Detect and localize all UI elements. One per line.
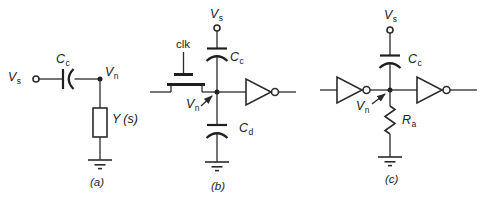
vs-base: V [210, 7, 218, 21]
vn-subscript: n [195, 103, 200, 113]
coupling-capacitor [63, 69, 74, 89]
cc-subscript: c [418, 58, 422, 68]
admittance-argument: (s) [123, 112, 138, 126]
cd-label: Cd [239, 122, 253, 137]
vn-subscript: n [365, 105, 370, 115]
vs-subscript: s [393, 14, 397, 24]
admittance-label: Y(s) [112, 113, 138, 126]
cc-base: C [230, 50, 239, 64]
panel-c-caption: (c) [385, 174, 398, 186]
cc-subscript: c [240, 56, 244, 66]
vn-subscript: n [114, 71, 119, 81]
cc-label: Cc [230, 51, 244, 66]
panel-a [33, 69, 112, 169]
ground-symbol [378, 157, 402, 166]
vs-label: Vs [8, 71, 21, 86]
ground-symbol [88, 160, 112, 169]
vs-terminal [387, 27, 393, 33]
cc-label: Cc [408, 53, 422, 68]
inverter-bubble [363, 87, 370, 94]
vn-base: V [105, 65, 113, 79]
vn-pointer-arrow [372, 94, 385, 104]
panel-a-caption: (a) [90, 177, 104, 189]
vn-label: Vn [105, 66, 119, 81]
vs-base: V [384, 8, 392, 22]
cd-subscript: d [249, 127, 254, 137]
admittance-base: Y [112, 112, 120, 126]
vs-terminal [33, 76, 39, 82]
cc-label: Cc [56, 53, 70, 68]
cc-base: C [56, 52, 65, 66]
nmos-switch [150, 52, 217, 92]
ra-base: R [402, 113, 411, 127]
ra-subscript: a [412, 119, 417, 129]
vs-label: Vs [384, 9, 397, 24]
vn-base: V [186, 97, 194, 111]
right-inverter [417, 77, 450, 103]
ra-label: Ra [402, 114, 416, 129]
circuit-figure: Vs Cc Vn Y(s) (a) Vs clk Cc Vn Cd (b) Vs… [0, 0, 485, 201]
cc-subscript: c [66, 58, 70, 68]
vs-label: Vs [210, 8, 223, 23]
vn-label: Vn [356, 100, 370, 115]
clk-label: clk [176, 39, 190, 51]
panel-c [320, 27, 477, 166]
admittance-box [93, 108, 107, 137]
panel-b-caption: (b) [211, 181, 225, 193]
inverter-bubble [272, 89, 279, 96]
panel-b [150, 25, 296, 171]
vn-pointer-arrow [201, 96, 212, 106]
vs-subscript: s [219, 13, 223, 23]
inverter-bubble [443, 87, 450, 94]
vs-terminal [214, 25, 220, 31]
schematic-canvas [0, 0, 485, 201]
resistor [385, 106, 395, 134]
vs-base: V [8, 70, 16, 84]
inverter [246, 79, 279, 105]
cc-base: C [408, 52, 417, 66]
cd-base: C [239, 121, 248, 135]
vn-base: V [356, 99, 364, 113]
vn-label: Vn [186, 98, 200, 113]
vs-subscript: s [17, 76, 21, 86]
ground-symbol [205, 162, 229, 171]
